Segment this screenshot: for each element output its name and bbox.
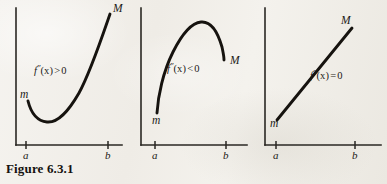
x-tick-label-a: a [23,150,29,161]
panel-convex: m M a b f″(x)>0 [0,0,130,160]
expr-arg: (x) [40,65,53,76]
label-max-M: M [230,55,240,67]
expr-value: 0 [61,65,66,76]
label-min-m: m [152,115,160,127]
expr-value: 0 [337,70,342,81]
panel-concave-plot [127,0,253,160]
x-tick-label-b: b [223,150,229,161]
label-max-M: M [341,15,351,27]
expr-arg: (x) [173,63,186,74]
panel-concave: m M a b f″(x)<0 [127,0,253,160]
expr-arg: (x) [316,70,329,81]
label-min-m: m [270,118,278,130]
expression-second-derivative-zero: f″(x)=0 [310,69,343,82]
label-max-M: M [113,3,123,15]
x-tick-label-b: b [105,150,111,161]
figure-6-3-1: m M a b f″(x)>0 m M a b f″(x)<0 [0,0,387,184]
label-min-m: m [20,89,28,101]
figure-caption: Figure 6.3.1 [6,161,74,177]
expression-second-derivative-negative: f″(x)<0 [167,62,200,75]
x-tick-label-a: a [152,150,158,161]
x-tick-label-b: b [352,150,358,161]
x-tick-label-a: a [273,150,279,161]
expr-value: 0 [194,63,199,74]
panel-linear: m M a b f″(x)=0 [253,0,387,160]
panel-convex-plot [0,0,130,160]
expression-second-derivative-positive: f″(x)>0 [34,64,67,77]
